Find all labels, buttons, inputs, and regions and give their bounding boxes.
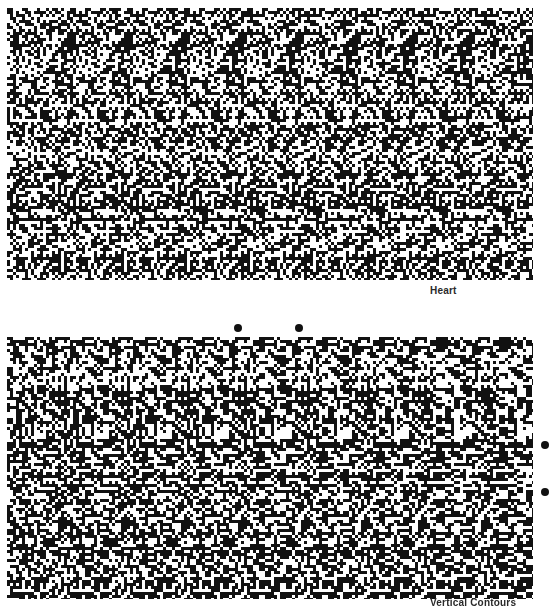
caption-heart: Heart (430, 285, 457, 296)
fusion-dot-icon (541, 441, 549, 449)
caption-vertical-contours: Vertical Contours (430, 597, 516, 608)
fusion-dot-icon (295, 324, 303, 332)
stereogram-vertical-contours (7, 337, 533, 599)
fusion-dot-icon (234, 324, 242, 332)
stereogram-heart (7, 8, 533, 280)
fusion-dot-icon (541, 488, 549, 496)
